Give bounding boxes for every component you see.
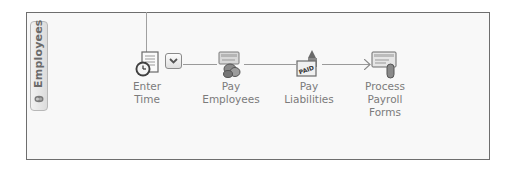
connector-line	[322, 64, 370, 65]
pay-employees-label[interactable]: Pay Employees	[199, 80, 263, 106]
paycheck-coins-icon[interactable]	[215, 49, 245, 79]
paid-stamp-icon[interactable]: PAID	[294, 49, 324, 79]
enter-time-label[interactable]: Enter Time	[124, 80, 170, 106]
employees-tab-label: Employees	[32, 19, 45, 88]
people-icon	[34, 94, 44, 104]
chevron-down-icon	[169, 57, 178, 65]
incoming-connector	[146, 12, 147, 52]
connector-line	[183, 64, 217, 65]
connector-line	[244, 64, 296, 65]
process-payroll-forms-label[interactable]: Process Payroll Forms	[355, 80, 415, 119]
payroll-form-icon[interactable]	[370, 49, 400, 81]
timesheet-clock-icon[interactable]	[134, 50, 162, 78]
enter-time-dropdown-button[interactable]	[165, 53, 182, 69]
employees-tab[interactable]: Employees	[30, 21, 48, 111]
pay-liabilities-label[interactable]: Pay Liabilities	[280, 80, 338, 106]
